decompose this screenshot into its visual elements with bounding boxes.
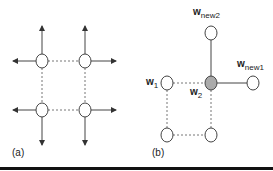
panel-b-grid: [161, 26, 259, 142]
wnew1-label: wnew1: [237, 58, 264, 72]
wnew2-base: w: [193, 6, 201, 17]
w2-label: w2: [190, 86, 202, 100]
panel-b-label: (b): [152, 147, 164, 158]
wnew2-sub: new2: [201, 11, 220, 20]
panel-a-label: (a): [12, 147, 24, 158]
wnew2-label: wnew2: [193, 6, 220, 20]
w1-base: w: [146, 76, 154, 87]
bottom-rule: [0, 167, 273, 170]
w2-base: w: [190, 86, 198, 97]
figure: (a) (b) w1 w2 wnew2 wnew1: [0, 0, 273, 171]
wnew1-base: w: [237, 58, 245, 69]
w2-sub: 2: [198, 91, 202, 100]
diagram-svg: [0, 0, 273, 171]
wnew1-sub: new1: [245, 63, 264, 72]
panel-a-grid: [13, 26, 116, 145]
w1-label: w1: [146, 76, 158, 90]
w1-sub: 1: [154, 81, 158, 90]
